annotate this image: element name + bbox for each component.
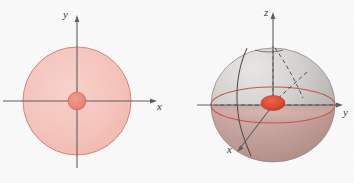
- disk-diagram: x y: [0, 0, 177, 183]
- hemisphere-y-axis-label: y: [342, 106, 348, 118]
- hot-spot: [261, 96, 285, 111]
- hemisphere-diagram-canvas: z y x: [177, 0, 354, 183]
- disk-y-axis-label: y: [62, 8, 68, 20]
- center-dot: [68, 92, 86, 110]
- disk-diagram-canvas: x y: [0, 0, 177, 183]
- hemisphere-x-axis-label: x: [226, 143, 232, 155]
- hemisphere-diagram: z y x: [177, 0, 354, 183]
- figure-root: x y: [0, 0, 354, 183]
- disk-x-axis-label: x: [156, 100, 162, 112]
- hemisphere-z-axis-label: z: [263, 6, 269, 18]
